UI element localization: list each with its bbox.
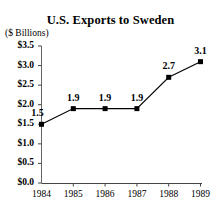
data-point-value-label: 1.9: [60, 92, 86, 103]
y-axis-tick-label: $1.5: [0, 118, 34, 128]
y-axis-tick-label: $2.5: [0, 79, 34, 89]
y-axis-tick-label: $0.5: [0, 157, 34, 167]
y-axis-tick-label: $1.0: [0, 138, 34, 148]
data-point-value-label: 3.1: [188, 45, 214, 56]
y-axis-tick-label: $0.0: [0, 177, 34, 187]
y-axis-tick-label: $3.0: [0, 60, 34, 70]
data-point-value-label: 2.7: [156, 60, 182, 71]
data-point-value-label: 1.9: [124, 92, 150, 103]
y-axis-tick-label: $3.5: [0, 40, 34, 50]
data-point-marker: [134, 106, 139, 111]
data-point-value-label: 1.5: [25, 107, 51, 118]
chart-figure: U.S. Exports to Sweden ($ Billions) $0.0…: [0, 0, 221, 210]
data-point-marker: [166, 75, 171, 80]
data-point-marker: [103, 106, 108, 111]
x-axis-tick-label: 1989: [181, 189, 221, 199]
data-point-value-label: 1.9: [92, 92, 118, 103]
data-point-marker: [198, 59, 203, 64]
data-point-marker: [39, 122, 44, 127]
data-point-marker: [71, 106, 76, 111]
